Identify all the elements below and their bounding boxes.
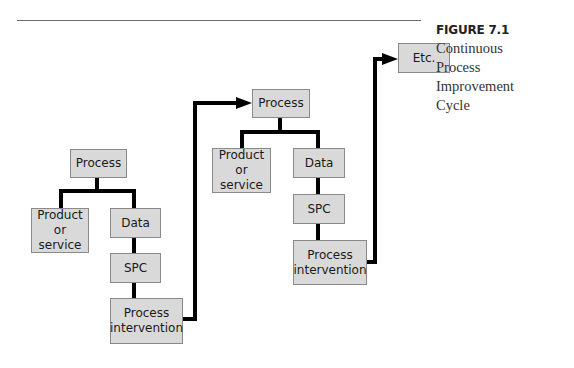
cycle1-process-box: Process	[70, 149, 127, 178]
caption-line: Cycle	[436, 96, 514, 115]
cycle1-data-box: Data	[110, 208, 161, 238]
cycle1-intervention-box: Process intervention	[110, 298, 183, 344]
arrow-head-icon	[382, 53, 398, 65]
caption-line: Improvement	[436, 77, 514, 96]
caption-line: Process	[436, 58, 514, 77]
cycle1-product-box: Product or service	[31, 208, 89, 253]
cycle2-spc-box: SPC	[293, 194, 345, 224]
cycle2-data-box: Data	[293, 148, 345, 178]
cycle1-spc-box: SPC	[110, 253, 161, 283]
caption-line: Continuous	[436, 39, 514, 58]
arrow-head-icon	[236, 97, 252, 109]
cycle2-process-box: Process	[252, 89, 310, 118]
cycle2-product-box: Product or service	[212, 148, 271, 193]
cycle2-intervention-box: Process intervention	[293, 240, 367, 285]
figure-number: FIGURE 7.1	[436, 21, 514, 39]
figure-caption: FIGURE 7.1 Continuous Process Improvemen…	[436, 21, 514, 115]
